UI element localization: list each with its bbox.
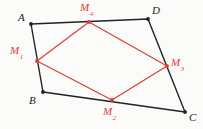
inner-quadrilateral-edges <box>37 22 167 100</box>
vertex-point-b <box>41 90 45 94</box>
midpoint-point-m4 <box>87 20 91 24</box>
midpoint-label-m3: M3 <box>171 57 184 71</box>
midpoint-point-m3 <box>165 64 169 68</box>
vertex-label-b: B <box>29 95 36 106</box>
midpoint-label-m2: M2 <box>103 106 116 120</box>
vertex-label-d: D <box>152 5 160 16</box>
midpoint-point-m1 <box>35 59 39 63</box>
geometry-figure: ADCBM1M2M3M4 <box>0 0 203 129</box>
vertex-point-d <box>146 17 150 21</box>
midpoint-label-m4: M4 <box>80 2 93 16</box>
vertex-point-a <box>29 22 33 26</box>
midpoint-label-m1: M1 <box>10 45 23 59</box>
midpoint-point-m2 <box>110 98 114 102</box>
vertex-point-c <box>183 110 187 114</box>
vertex-label-a: A <box>18 12 25 23</box>
outer-vertex-markers <box>29 17 187 114</box>
inner-quadrilateral-path <box>37 22 167 100</box>
inner-vertex-markers <box>35 20 169 102</box>
vertex-label-c: C <box>189 112 196 123</box>
